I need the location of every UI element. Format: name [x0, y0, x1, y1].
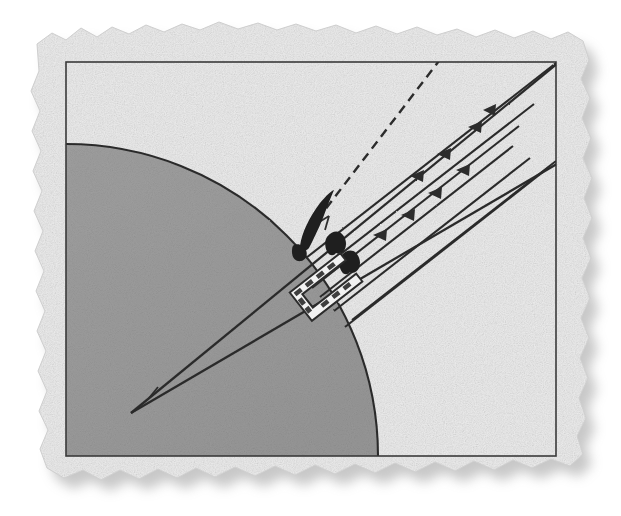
- technical-diagram-svg: Scanned technical illustration on torn-e…: [0, 0, 621, 516]
- figure-stage: Scanned technical illustration on torn-e…: [0, 0, 621, 516]
